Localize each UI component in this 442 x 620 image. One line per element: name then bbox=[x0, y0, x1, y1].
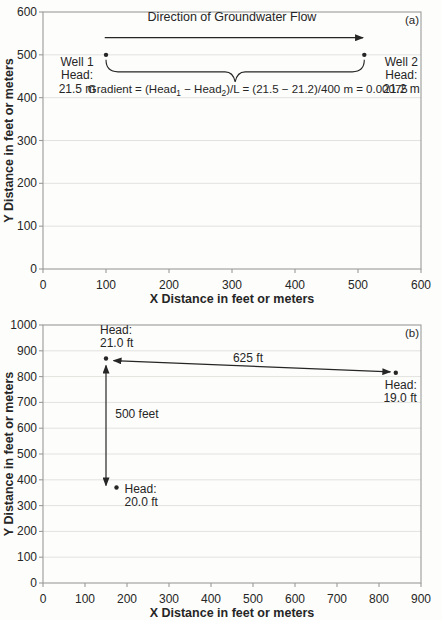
flow-direction-title: Direction of Groundwater Flow bbox=[148, 10, 318, 24]
y-tick-label: 700 bbox=[17, 395, 37, 409]
y-axis-label: Y Distance in feet or meters bbox=[2, 58, 16, 222]
y-tick-label: 100 bbox=[17, 550, 37, 564]
groundwater-figure: 01002003004005006000100200300400500600X … bbox=[0, 0, 442, 620]
distance-arrow-500-label: 500 feet bbox=[115, 407, 159, 421]
x-tick-label: 900 bbox=[411, 592, 431, 606]
y-tick-label: 100 bbox=[17, 219, 37, 233]
point-label: 19.0 ft bbox=[383, 391, 417, 405]
data-point bbox=[104, 356, 108, 360]
x-axis-label: X Distance in feet or meters bbox=[150, 292, 315, 306]
y-tick-label: 0 bbox=[30, 262, 37, 276]
y-tick-label: 600 bbox=[17, 5, 37, 19]
point-label: 20.0 ft bbox=[125, 495, 159, 509]
y-axis-label: Y Distance in feet or meters bbox=[2, 372, 16, 536]
distance-arrow-625-label: 625 ft bbox=[233, 351, 264, 365]
point-label: Head: bbox=[100, 323, 132, 337]
x-tick-label: 500 bbox=[243, 592, 263, 606]
y-tick-label: 0 bbox=[30, 576, 37, 590]
y-tick-label: 400 bbox=[17, 473, 37, 487]
x-tick-label: 200 bbox=[117, 592, 137, 606]
x-tick-label: 300 bbox=[222, 278, 242, 292]
point-label: Well 2 bbox=[385, 55, 418, 69]
y-tick-label: 600 bbox=[17, 421, 37, 435]
x-tick-label: 500 bbox=[348, 278, 368, 292]
gradient-equation: Gradient = (Head1 − Head2)/L = (21.5 − 2… bbox=[88, 83, 408, 97]
point-label: Head: bbox=[385, 68, 417, 82]
panel-label: (b) bbox=[405, 327, 419, 339]
x-tick-label: 400 bbox=[201, 592, 221, 606]
y-tick-label: 1000 bbox=[10, 318, 37, 332]
x-tick-label: 300 bbox=[159, 592, 179, 606]
point-label: 21.5 m bbox=[59, 82, 96, 96]
y-tick-label: 300 bbox=[17, 499, 37, 513]
y-tick-label: 900 bbox=[17, 344, 37, 358]
chart-b-svg: 0100200300400500600700800900010020030040… bbox=[0, 312, 442, 620]
chart-a-svg: 01002003004005006000100200300400500600X … bbox=[0, 0, 442, 312]
y-tick-label: 200 bbox=[17, 524, 37, 538]
panel-a: 01002003004005006000100200300400500600X … bbox=[0, 0, 442, 312]
data-point bbox=[362, 53, 366, 57]
point-label: Head: bbox=[125, 482, 157, 496]
y-tick-label: 200 bbox=[17, 176, 37, 190]
x-tick-label: 0 bbox=[40, 592, 47, 606]
point-label: Head: bbox=[385, 378, 417, 392]
point-label: 21.0 ft bbox=[100, 336, 134, 350]
data-point bbox=[114, 485, 118, 489]
x-axis-label: X Distance in feet or meters bbox=[150, 606, 315, 620]
point-label: 21.2 m bbox=[383, 82, 420, 96]
data-point bbox=[394, 371, 398, 375]
x-tick-label: 700 bbox=[327, 592, 347, 606]
x-tick-label: 400 bbox=[285, 278, 305, 292]
gradient-brace bbox=[106, 60, 364, 82]
y-tick-label: 500 bbox=[17, 447, 37, 461]
y-tick-label: 800 bbox=[17, 370, 37, 384]
y-tick-label: 300 bbox=[17, 134, 37, 148]
y-tick-label: 500 bbox=[17, 48, 37, 62]
panel-label: (a) bbox=[405, 14, 419, 26]
x-tick-label: 100 bbox=[75, 592, 95, 606]
x-tick-label: 200 bbox=[159, 278, 179, 292]
point-label: Well 1 bbox=[60, 55, 93, 69]
x-tick-label: 0 bbox=[40, 278, 47, 292]
x-tick-label: 600 bbox=[285, 592, 305, 606]
y-tick-label: 400 bbox=[17, 91, 37, 105]
point-label: Head: bbox=[61, 68, 93, 82]
x-tick-label: 600 bbox=[411, 278, 431, 292]
data-point bbox=[104, 53, 108, 57]
panel-b: 0100200300400500600700800900010020030040… bbox=[0, 312, 442, 620]
x-tick-label: 100 bbox=[96, 278, 116, 292]
x-tick-label: 800 bbox=[369, 592, 389, 606]
